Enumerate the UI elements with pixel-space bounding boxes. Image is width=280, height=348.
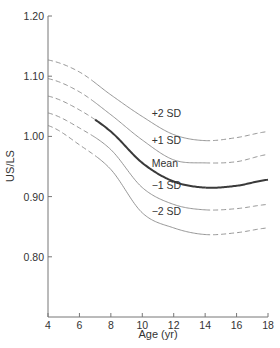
axes: 46810121416180.800.901.001.101.20 bbox=[24, 10, 274, 331]
series-label: +1 SD bbox=[152, 134, 182, 146]
y-axis-label: US/LS bbox=[4, 150, 16, 182]
curve--1-sd bbox=[48, 79, 268, 163]
dashed-segment bbox=[205, 154, 268, 163]
y-tick-label: 1.20 bbox=[24, 10, 45, 22]
dashed-segment bbox=[48, 126, 95, 156]
x-tick-label: 16 bbox=[231, 319, 243, 331]
series-label: Mean bbox=[152, 157, 178, 169]
chart-svg: 46810121416180.800.901.001.101.20 +2 SD+… bbox=[0, 0, 280, 348]
series-label: −1 SD bbox=[152, 179, 182, 191]
solid-segment bbox=[95, 137, 205, 209]
solid-segment bbox=[95, 156, 205, 235]
dashed-segment bbox=[48, 96, 95, 120]
x-tick-label: 18 bbox=[262, 319, 274, 331]
y-tick-label: 0.80 bbox=[24, 251, 45, 263]
y-tick-label: 1.10 bbox=[24, 70, 45, 82]
x-axis-label: Age (yr) bbox=[138, 328, 177, 340]
dashed-segment bbox=[48, 79, 95, 103]
x-tick-label: 8 bbox=[108, 319, 114, 331]
series-label: +2 SD bbox=[152, 107, 182, 119]
dashed-segment bbox=[48, 113, 95, 137]
chart-container: 46810121416180.800.901.001.101.20 +2 SD+… bbox=[0, 0, 280, 348]
series-label: −2 SD bbox=[152, 205, 182, 217]
solid-segment bbox=[95, 120, 205, 188]
solid-segment bbox=[205, 180, 268, 188]
y-tick-label: 1.00 bbox=[24, 130, 45, 142]
x-tick-label: 6 bbox=[77, 319, 83, 331]
x-tick-label: 14 bbox=[199, 319, 211, 331]
y-tick-label: 0.90 bbox=[24, 191, 45, 203]
series-labels: +2 SD+1 SDMean−1 SD−2 SD bbox=[152, 107, 182, 217]
dashed-segment bbox=[205, 228, 268, 235]
dashed-segment bbox=[48, 60, 95, 83]
dashed-segment bbox=[205, 132, 268, 141]
x-tick-label: 4 bbox=[45, 319, 51, 331]
dashed-segment bbox=[205, 204, 268, 210]
